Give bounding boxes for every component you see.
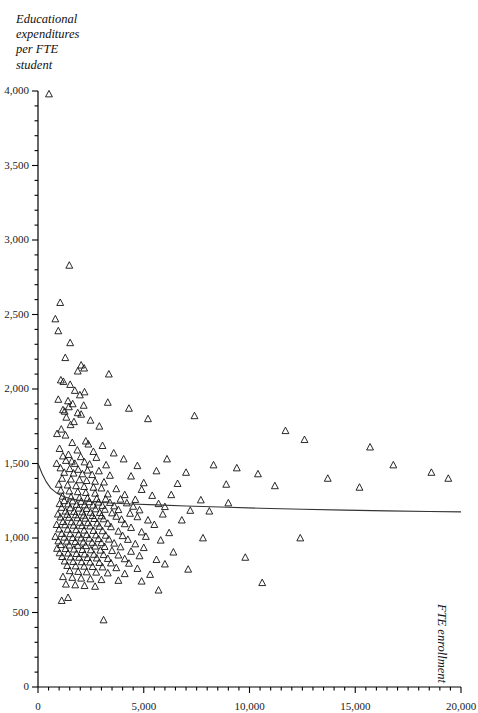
y-tick-label: 3,500	[4, 159, 29, 171]
y-tick-label: 500	[13, 606, 30, 618]
y-tick-label: 2,500	[4, 308, 29, 320]
x-tick-label: 0	[35, 700, 41, 712]
y-tick-label: 4,000	[4, 84, 29, 96]
x-tick-label: 15,000	[340, 700, 370, 712]
axes	[32, 91, 461, 693]
y-tick-label: 1,500	[4, 457, 29, 469]
y-tick-label: 1,000	[4, 531, 29, 543]
y-tick-label: 0	[24, 680, 30, 692]
scatter-plot	[0, 0, 478, 713]
y-tick-label: 2,000	[4, 382, 29, 394]
x-tick-label: 20,000	[446, 700, 476, 712]
x-tick-label: 10,000	[234, 700, 264, 712]
x-tick-label: 5,000	[131, 700, 156, 712]
y-tick-label: 3,000	[4, 233, 29, 245]
data-points	[46, 90, 452, 622]
